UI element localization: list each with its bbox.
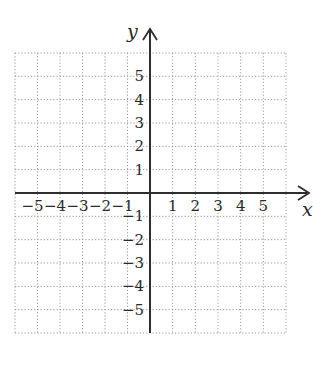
x-tick-labels: −5−4−3−2−112345 — [21, 197, 268, 215]
y-tick-label: −2 — [122, 231, 144, 249]
x-tick-label: −3 — [66, 197, 88, 215]
x-tick-label: 5 — [259, 197, 269, 215]
y-axis-label: y — [126, 20, 138, 42]
y-tick-label: −4 — [122, 277, 144, 295]
y-tick-label: 4 — [134, 91, 144, 109]
y-tick-label: 5 — [134, 67, 144, 85]
y-tick-label: 3 — [134, 114, 144, 132]
x-tick-label: −5 — [21, 197, 43, 215]
x-tick-label: −2 — [89, 197, 111, 215]
y-tick-label: −5 — [122, 301, 144, 319]
y-tick-label: 2 — [134, 137, 144, 155]
coordinate-plane: x y −5−4−3−2−112345 54321−1−2−3−4−5 — [0, 0, 334, 368]
x-tick-label: 1 — [168, 197, 178, 215]
axes — [15, 29, 309, 333]
y-tick-label: −3 — [122, 254, 144, 272]
y-tick-label: 1 — [134, 161, 144, 179]
x-axis-label: x — [302, 198, 313, 220]
x-tick-label: −4 — [44, 197, 66, 215]
x-tick-label: 2 — [191, 197, 201, 215]
x-tick-label: 4 — [236, 197, 246, 215]
x-tick-label: 3 — [213, 197, 223, 215]
y-tick-label: −1 — [122, 207, 144, 225]
